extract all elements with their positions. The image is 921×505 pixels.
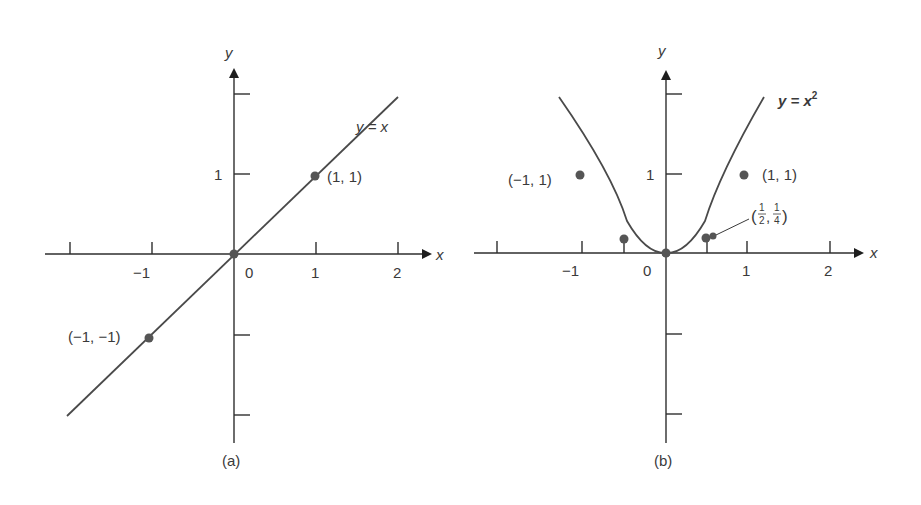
svg-text:1: 1 bbox=[774, 202, 780, 213]
svg-text:2: 2 bbox=[759, 215, 765, 226]
x-axis-label: x bbox=[435, 246, 444, 263]
data-point-neg1-neg1 bbox=[145, 334, 154, 343]
x-tick-label: 0 bbox=[643, 262, 651, 279]
parabola-curve bbox=[559, 97, 764, 253]
svg-text:1: 1 bbox=[759, 202, 765, 213]
svg-text:,: , bbox=[766, 208, 770, 225]
x-tick-label: −1 bbox=[562, 262, 579, 279]
figure-canvas: x y −1 0 1 2 1 (1, 1) (−1, −1) y = x (a) bbox=[0, 0, 921, 505]
y-tick-label: 1 bbox=[646, 166, 654, 183]
x-tick-label: −1 bbox=[133, 264, 150, 281]
panel-a: x y −1 0 1 2 1 (1, 1) (−1, −1) y = x (a) bbox=[45, 44, 444, 469]
point-label: (1, 1) bbox=[327, 168, 362, 185]
svg-text:(: ( bbox=[751, 207, 757, 226]
data-point-1-1 bbox=[311, 172, 320, 181]
svg-text:4: 4 bbox=[774, 215, 780, 226]
point-label: (1, 1) bbox=[762, 166, 797, 183]
panel-b: x y −1 0 1 2 1 (−1, 1) (1, 1) ( 1 2 , 1 … bbox=[474, 42, 878, 469]
data-point-origin bbox=[662, 249, 671, 258]
x-tick-label: 0 bbox=[245, 264, 253, 281]
data-point-origin bbox=[230, 250, 239, 259]
svg-text:): ) bbox=[782, 207, 788, 226]
x-tick-label: 1 bbox=[311, 264, 319, 281]
x-tick-label: 2 bbox=[824, 262, 832, 279]
data-point-1-1 bbox=[740, 171, 749, 180]
data-point-neg1-1 bbox=[576, 171, 585, 180]
curve-label: y = x bbox=[355, 118, 389, 135]
leader-line bbox=[716, 219, 749, 235]
fraction-label: ( 1 2 , 1 4 ) bbox=[751, 202, 788, 226]
point-label: (−1, −1) bbox=[68, 328, 121, 345]
y-axis-label: y bbox=[657, 42, 667, 59]
y-tick-label: 1 bbox=[214, 166, 222, 183]
panel-caption: (a) bbox=[222, 452, 240, 469]
panel-caption: (b) bbox=[654, 452, 672, 469]
x-tick-label: 1 bbox=[742, 262, 750, 279]
data-point-half-quarter bbox=[702, 234, 711, 243]
y-axis-label: y bbox=[224, 44, 234, 61]
x-tick-label: 2 bbox=[393, 264, 401, 281]
curve-label: y = x2 bbox=[777, 90, 818, 109]
data-point-marker bbox=[710, 233, 717, 240]
x-axis-label: x bbox=[869, 244, 878, 261]
point-label: (−1, 1) bbox=[508, 171, 552, 188]
data-point-neg-half-quarter bbox=[620, 235, 629, 244]
